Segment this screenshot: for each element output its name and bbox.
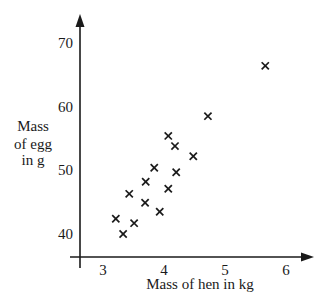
y-tick-label: 60 [58,99,73,115]
x-marker-icon [173,169,180,176]
y-axis-title-line-3: in g [22,152,45,168]
x-marker-icon [171,142,178,149]
chart-canvas: 3456 40506070 Mass of hen in kg Mass of … [0,0,329,305]
scatter-chart: 3456 40506070 Mass of hen in kg Mass of … [0,0,329,305]
y-tick-label: 70 [58,35,73,51]
x-axis-title: Mass of hen in kg [146,276,254,292]
x-tick-label: 6 [282,262,290,278]
x-marker-icon [141,199,148,206]
x-marker-icon [131,220,138,227]
x-marker-icon [142,178,149,185]
x-tick-label: 3 [99,262,107,278]
x-marker-icon [165,132,172,139]
y-axis-title-line-1: Mass [17,118,49,134]
x-marker-icon [156,208,163,215]
x-marker-icon [151,164,158,171]
x-marker-icon [165,185,172,192]
y-tick-labels: 40506070 [58,35,73,242]
x-marker-icon [126,190,133,197]
data-points [112,62,269,237]
x-marker-icon [204,113,211,120]
y-axis-title-line-2: of egg [14,136,52,152]
y-tick-label: 40 [58,226,73,242]
x-marker-icon [112,215,119,222]
x-marker-icon [262,62,269,69]
x-axis-arrow-icon [301,253,314,262]
y-axis-arrow-icon [76,14,85,27]
y-tick-label: 50 [58,162,73,178]
x-marker-icon [120,230,127,237]
x-marker-icon [190,153,197,160]
